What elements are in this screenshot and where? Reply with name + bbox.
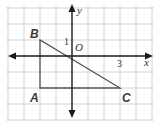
point-c-label: C bbox=[122, 91, 131, 105]
x-axis-label: x bbox=[143, 56, 149, 68]
y-axis-down-arrow-icon bbox=[69, 110, 76, 118]
point-b-label: B bbox=[30, 27, 39, 41]
coordinate-plane: y x O 1 3 B A C bbox=[0, 0, 161, 126]
point-a-label: A bbox=[29, 91, 39, 105]
x-axis-left-arrow-icon bbox=[8, 53, 16, 60]
x-tick-label: 3 bbox=[117, 58, 122, 69]
grid bbox=[6, 6, 154, 120]
origin-label: O bbox=[75, 41, 83, 53]
y-tick-label: 1 bbox=[64, 36, 69, 47]
y-axis-label: y bbox=[76, 4, 82, 16]
x-axis bbox=[8, 53, 153, 60]
